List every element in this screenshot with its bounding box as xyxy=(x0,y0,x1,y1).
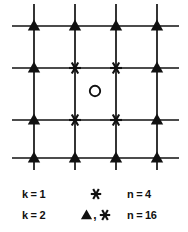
site-triangle xyxy=(28,62,40,73)
lattice-diagram xyxy=(0,0,188,180)
site-triangle xyxy=(69,152,81,163)
lattice-figure: k = 1 n = 4 k = 2 , xyxy=(0,0,188,232)
triangle-icon xyxy=(80,208,93,222)
site-triangle xyxy=(28,20,40,31)
site-triangle xyxy=(151,152,163,163)
site-triangle xyxy=(151,62,163,73)
legend-n-label: n = 16 xyxy=(127,209,177,221)
centre-circle-marker xyxy=(90,86,100,96)
site-triangle xyxy=(110,152,122,163)
legend-row: k = 2 , n = 16 xyxy=(0,204,188,225)
site-triangle xyxy=(151,20,163,31)
lattice-horizontal-lines xyxy=(12,26,179,158)
legend-row: k = 1 n = 4 xyxy=(0,183,188,204)
legend: k = 1 n = 4 k = 2 , xyxy=(0,182,188,232)
site-triangle xyxy=(151,114,163,125)
legend-k-label: k = 1 xyxy=(22,188,68,200)
legend-n-label: n = 4 xyxy=(127,188,177,200)
asterisk-icon xyxy=(89,187,103,201)
legend-marker-k2: , xyxy=(72,208,120,222)
lattice-site-markers-row-4 xyxy=(28,152,163,163)
lattice-vertical-lines xyxy=(34,4,157,170)
site-triangle xyxy=(28,152,40,163)
site-triangle xyxy=(110,20,122,31)
site-triangle xyxy=(28,114,40,125)
lattice-site-markers-row-1 xyxy=(28,20,163,31)
site-triangle xyxy=(69,20,81,31)
legend-marker-k1 xyxy=(72,187,120,201)
asterisk-icon xyxy=(98,208,112,222)
legend-k-label: k = 2 xyxy=(22,209,68,221)
